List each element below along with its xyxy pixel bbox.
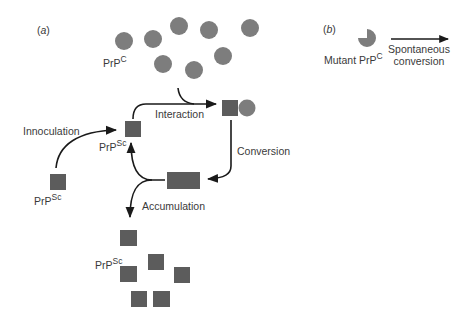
prpc-circle xyxy=(115,32,133,50)
conversion-label: Conversion xyxy=(237,145,290,157)
panel-a-label: (a) xyxy=(37,24,50,36)
interaction-label: Interaction xyxy=(155,108,204,120)
prpc-circle xyxy=(200,21,218,39)
prpsc-square xyxy=(120,266,137,282)
prpsc-square xyxy=(174,267,190,283)
label-base: PrP xyxy=(95,259,113,271)
label-line-1: Spontaneous xyxy=(386,43,452,55)
prpc-feed-curve xyxy=(178,88,194,104)
prpc-circle xyxy=(154,55,172,73)
prpsc-square xyxy=(222,100,238,116)
spontaneous-conversion-label: Spontaneous conversion xyxy=(386,43,452,67)
accumulation-label: Accumulation xyxy=(142,200,205,212)
prpc-circle xyxy=(214,47,232,65)
label-sup: Sc xyxy=(113,256,123,266)
panel-b-label: (b) xyxy=(323,23,336,35)
label-base: Mutant PrP xyxy=(324,54,377,66)
prpsc-aggregate xyxy=(167,172,200,189)
prpsc-square xyxy=(148,254,164,270)
prpsc-inoculum-square xyxy=(50,174,66,190)
prpsc-cycle-square xyxy=(125,121,141,137)
prpsc-square xyxy=(131,291,147,307)
conversion-arrow xyxy=(208,120,231,179)
paren: ) xyxy=(332,23,336,35)
label-sup: Sc xyxy=(52,192,62,202)
label-sup: C xyxy=(121,54,127,64)
prpc-circle xyxy=(185,61,203,79)
label-sup: C xyxy=(377,51,383,61)
prpc-circle xyxy=(144,30,162,48)
label-sup: Sc xyxy=(117,138,127,148)
prpc-circle xyxy=(239,100,256,117)
prpsc-inoculum-label: PrPSc xyxy=(34,195,61,207)
label-line-2: conversion xyxy=(386,55,452,67)
mutant-prpc-shape xyxy=(358,29,376,47)
prpc-circle-cluster xyxy=(115,17,259,79)
prpsc-prpc-complex xyxy=(222,100,256,117)
prpsc-accumulated-cluster xyxy=(120,230,190,307)
label-base: PrP xyxy=(99,141,117,153)
paren: ) xyxy=(46,24,50,36)
mutant-prpc-label: Mutant PrPC xyxy=(324,54,383,66)
prpc-circle xyxy=(170,17,188,35)
prpsc-square xyxy=(120,230,137,246)
prpc-circle xyxy=(241,19,259,37)
prpsc-square xyxy=(153,291,170,307)
innoculation-label: Innoculation xyxy=(23,125,80,137)
prpc-label: PrPC xyxy=(103,57,127,69)
prpsc-cycle-label: PrPSc xyxy=(99,141,126,153)
prpsc-accumulated-label: PrPSc xyxy=(95,259,122,271)
label-base: PrP xyxy=(103,57,121,69)
label-base: PrP xyxy=(34,195,52,207)
recycle-arrow xyxy=(131,143,165,180)
